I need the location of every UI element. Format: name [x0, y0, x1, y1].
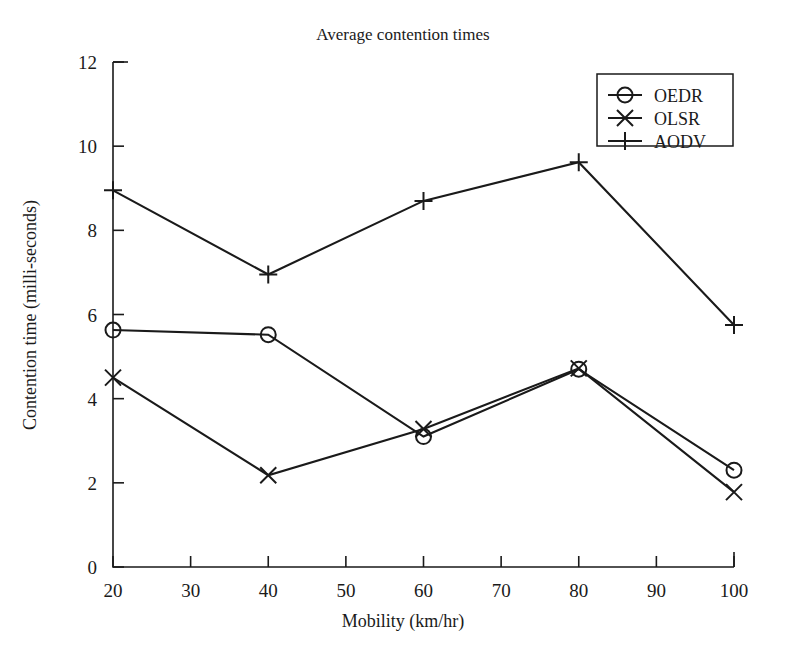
legend-label: OEDR: [654, 86, 703, 106]
x-tick-label: 20: [104, 580, 123, 601]
x-tick-label: 90: [647, 580, 666, 601]
x-tick-label: 50: [336, 580, 355, 601]
x-tick-label: 70: [492, 580, 511, 601]
y-tick-label: 12: [78, 52, 97, 73]
series-oedr: [106, 323, 742, 478]
x-axis-ticks: 2030405060708090100: [104, 556, 749, 601]
y-axis-ticks: 024681012: [78, 52, 124, 578]
series-olsr: [105, 360, 742, 500]
chart-legend: OEDROLSRAODV: [597, 74, 733, 152]
y-tick-label: 2: [88, 473, 98, 494]
x-tick-label: 40: [259, 580, 278, 601]
data-point-aodv-60: [415, 192, 433, 210]
y-tick-label: 10: [78, 136, 97, 157]
y-tick-label: 0: [88, 557, 98, 578]
x-axis-label: Mobility (km/hr): [342, 611, 465, 632]
data-point-olsr-40: [260, 467, 276, 483]
x-tick-label: 30: [181, 580, 200, 601]
data-point-aodv-20: [104, 181, 122, 199]
legend-label: OLSR: [654, 109, 700, 129]
x-tick-label: 100: [720, 580, 749, 601]
series-layer: [104, 153, 743, 500]
y-axis-label: Contention time (milli-seconds): [20, 200, 41, 430]
chart-title: Average contention times: [316, 25, 489, 44]
data-point-olsr-100: [726, 484, 742, 500]
y-tick-label: 4: [88, 389, 98, 410]
data-point-olsr-80: [571, 360, 587, 376]
x-tick-label: 80: [569, 580, 588, 601]
contention-time-line-chart: Average contention times 024681012 20304…: [0, 0, 788, 659]
series-line-aodv: [113, 162, 734, 325]
series-aodv: [104, 153, 743, 334]
y-tick-label: 8: [88, 220, 98, 241]
legend-item-oedr: OEDR: [608, 86, 703, 106]
data-point-olsr-60: [416, 421, 432, 437]
y-tick-label: 6: [88, 305, 98, 326]
chart-figure: Average contention times 024681012 20304…: [0, 0, 788, 659]
x-tick-label: 60: [414, 580, 433, 601]
legend-label: AODV: [654, 132, 706, 152]
series-line-oedr: [113, 330, 734, 470]
data-point-aodv-40: [259, 266, 277, 284]
